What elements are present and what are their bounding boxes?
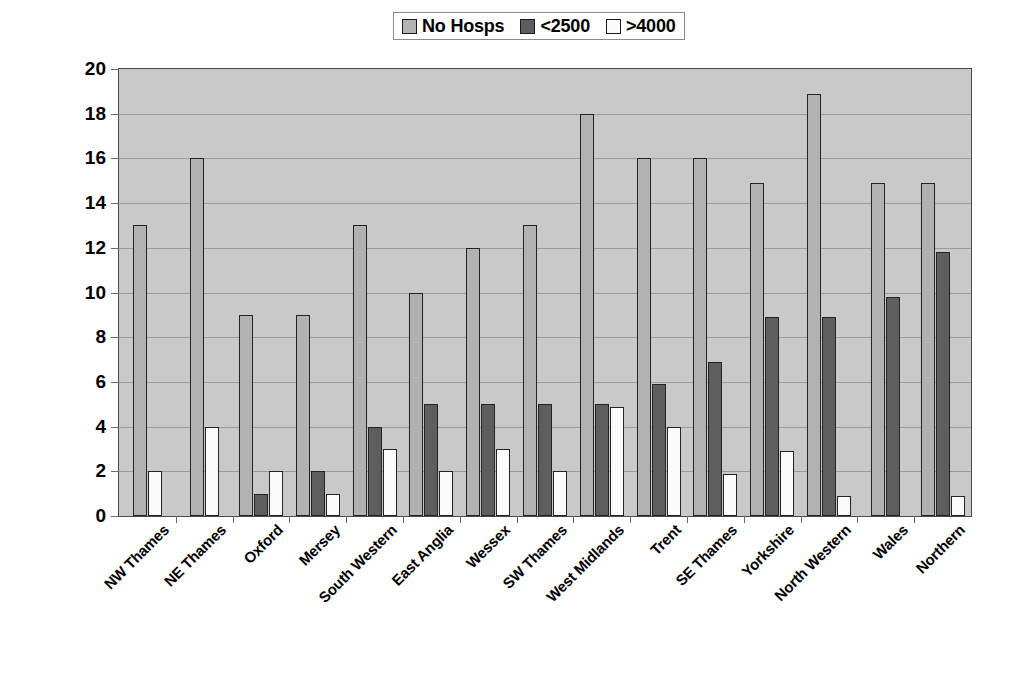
legend-entry-over-4000: >4000 [606,17,676,35]
bar [439,471,453,516]
y-axis-tick [111,516,119,517]
plot-area: 20181614121086420 [118,68,972,517]
bar-group [573,69,630,516]
legend-swatch-under-2500 [520,19,535,34]
y-axis-tick [111,248,119,249]
bar [481,404,495,516]
y-axis-tick-label: 12 [85,237,106,259]
x-axis-label: Trent [646,521,683,558]
bar [871,183,885,516]
bar-group [289,69,346,516]
bar [780,451,794,516]
bar [595,404,609,516]
bar [383,449,397,516]
legend-label-under-2500: <2500 [540,17,590,35]
bar [424,404,438,516]
y-axis-tick [111,382,119,383]
y-axis-tick [111,114,119,115]
bar [269,471,283,516]
bar [133,225,147,516]
bar [311,471,325,516]
bar-group [914,69,971,516]
bar [708,362,722,516]
x-axis-labels: NW ThamesNE ThamesOxfordMerseySouth West… [118,521,970,681]
y-axis-tick [111,337,119,338]
bar [296,315,310,516]
bar [765,317,779,516]
bar [886,297,900,516]
legend-swatch-no-hosps [402,19,417,34]
bar [190,158,204,516]
bar [326,494,340,516]
bar [148,471,162,516]
bar [368,427,382,516]
bar-group [801,69,858,516]
y-axis-tick-label: 14 [85,192,106,214]
y-axis-tick-label: 18 [85,103,106,125]
legend-label-over-4000: >4000 [626,17,676,35]
bar [723,474,737,516]
bar [538,404,552,516]
y-axis-tick [111,471,119,472]
y-axis-tick-label: 10 [85,282,106,304]
y-axis-tick-label: 20 [85,58,106,80]
x-axis-label: Yorkshire [738,521,797,580]
y-axis-tick-label: 8 [95,326,106,348]
chart-legend: No Hosps <2500 >4000 [393,12,685,40]
bar [693,158,707,516]
y-axis-tick [111,158,119,159]
bar [921,183,935,516]
legend-entry-under-2500: <2500 [520,17,590,35]
legend-entry-no-hosps: No Hosps [402,17,504,35]
bar [239,315,253,516]
bar-chart: No Hosps <2500 >4000 20181614121086420 N… [0,0,1019,684]
bar [936,252,950,516]
bar-group [233,69,290,516]
bar-group [630,69,687,516]
legend-swatch-over-4000 [606,19,621,34]
bar [837,496,851,516]
x-axis-label: Northern [912,521,968,577]
y-axis-tick-label: 4 [95,416,106,438]
bar [667,427,681,516]
y-axis-tick [111,293,119,294]
y-axis-tick [111,69,119,70]
bar [353,225,367,516]
x-axis-label: Mersey [295,521,343,569]
x-axis-label: Wessex [463,521,513,571]
bar-group [744,69,801,516]
bar [580,114,594,516]
bar-group [517,69,574,516]
bar [496,449,510,516]
bar-group [403,69,460,516]
bar [205,427,219,516]
bar [466,248,480,516]
bar-groups [119,69,971,516]
y-axis-tick [111,427,119,428]
bar-group [176,69,233,516]
bar-group [460,69,517,516]
bar [822,317,836,516]
y-axis-tick [111,203,119,204]
y-axis-tick-label: 16 [85,147,106,169]
bar [652,384,666,516]
x-axis-label: NW Thames [101,521,172,592]
x-axis-label: Oxford [240,521,286,567]
bar [409,293,423,517]
bar-group [857,69,914,516]
bar-group [119,69,176,516]
bar [637,158,651,516]
y-axis-tick-label: 6 [95,371,106,393]
bar [807,94,821,516]
bar [523,225,537,516]
legend-label-no-hosps: No Hosps [422,17,504,35]
x-axis-label: Wales [869,521,911,563]
bar [610,407,624,517]
bar-group [687,69,744,516]
y-axis-tick-label: 2 [95,460,106,482]
bar [553,471,567,516]
bar-group [346,69,403,516]
y-axis-tick-label: 0 [95,505,106,527]
bar [254,494,268,516]
bar [951,496,965,516]
